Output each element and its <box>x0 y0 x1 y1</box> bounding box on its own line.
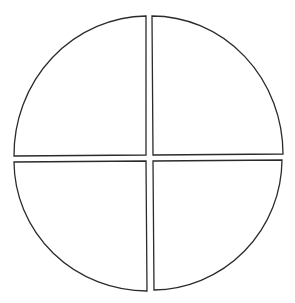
quadrant-top-right <box>152 16 283 155</box>
quadrant-bottom-left <box>14 161 147 291</box>
quadrant-bottom-right <box>153 160 282 290</box>
quadrant-top-left <box>14 16 146 156</box>
quadrant-circle-diagram <box>0 0 295 303</box>
